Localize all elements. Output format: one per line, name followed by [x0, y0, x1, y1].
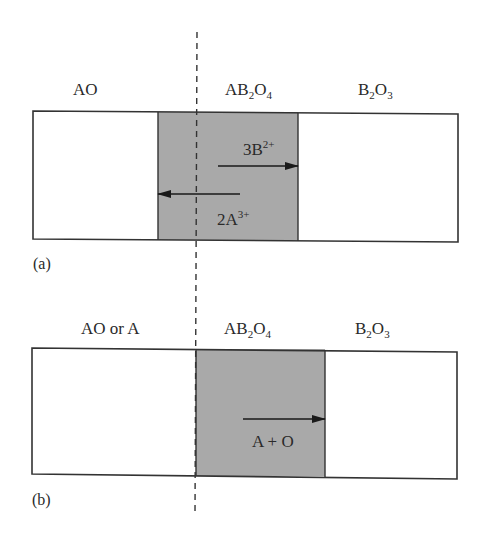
panel-a-flux-label-right: 3B2+ [243, 140, 275, 160]
panel-b-right-phase-region [325, 350, 457, 477]
panel-b-left-phase-region [32, 348, 196, 475]
panel-b-product-layer [196, 349, 325, 476]
chem-formula: B2O3 [358, 80, 393, 99]
panel-a-right-phase-region [298, 113, 458, 241]
panel-b-left-phase-label: AO or A [81, 319, 140, 339]
panel-b-right-phase-label: B2O3 [355, 319, 390, 339]
chem-formula: AO or A [81, 319, 140, 338]
chem-formula: AB2O4 [224, 319, 271, 338]
panel-b-flux-label: A + O [252, 432, 294, 452]
panel-a-middle-phase-label: AB2O4 [225, 80, 272, 100]
spinel-formation-diagram: AO AB2O4 B2O3 3B2+ 2A3+ (a) AO or A AB2O… [0, 0, 481, 539]
chem-formula: AO [73, 80, 98, 99]
chem-species: A + O [252, 432, 294, 451]
panel-a-tag: (a) [33, 255, 51, 273]
panel-a-flux-label-left: 2A3+ [217, 210, 250, 230]
chem-species: 3B2+ [243, 140, 275, 159]
panel-a-right-phase-label: B2O3 [358, 80, 393, 100]
chem-formula: AB2O4 [225, 80, 272, 99]
panel-a-left-phase-region [33, 111, 158, 241]
panel-a-left-phase-label: AO [73, 80, 98, 100]
panel-b-middle-phase-label: AB2O4 [224, 319, 271, 339]
chem-species: 2A3+ [217, 210, 250, 229]
panel-b-tag: (b) [32, 491, 51, 509]
panel-b-graphics [32, 348, 457, 479]
chem-formula: B2O3 [355, 319, 390, 338]
